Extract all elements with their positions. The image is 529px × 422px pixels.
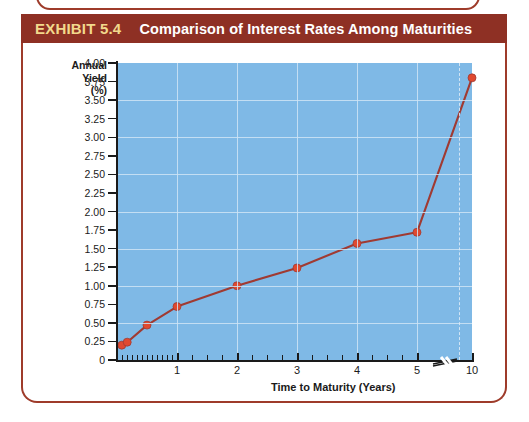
plot-region — [117, 63, 472, 360]
y-axis-tick-label: 2.75 — [73, 150, 105, 162]
x-axis-minor-tick — [327, 355, 328, 361]
exhibit-title: Comparison of Interest Rates Among Matur… — [139, 21, 472, 37]
x-axis-tick-label: 10 — [466, 364, 478, 376]
exhibit-number: EXHIBIT 5.4 — [35, 20, 121, 37]
gridline-vertical-dashed — [459, 63, 461, 360]
x-axis-minor-tick — [312, 355, 313, 361]
x-axis-title: Time to Maturity (Years) — [271, 381, 396, 393]
x-axis-minor-tick — [162, 355, 163, 361]
x-axis-minor-tick — [167, 355, 168, 361]
x-axis-tick — [472, 353, 474, 361]
y-axis-tick — [108, 359, 116, 361]
x-axis-minor-tick — [222, 355, 223, 361]
y-axis-tick — [108, 137, 116, 139]
y-axis-tick-label: 0.50 — [73, 317, 105, 329]
x-axis-minor-tick — [132, 355, 133, 361]
x-axis-minor-tick — [157, 355, 158, 361]
gridline-horizontal — [117, 249, 472, 250]
x-axis-minor-tick — [252, 355, 253, 361]
y-axis-tick — [108, 322, 116, 324]
series-data-point — [468, 74, 476, 82]
y-axis-tick — [108, 304, 116, 306]
y-axis-tick — [108, 341, 116, 343]
x-axis-minor-tick — [342, 355, 343, 361]
x-axis-minor-tick — [387, 355, 388, 361]
y-axis-tick — [108, 192, 116, 194]
x-axis-tick-label: 2 — [234, 364, 240, 376]
x-axis-tick — [237, 353, 239, 361]
x-axis-minor-tick — [192, 355, 193, 361]
y-axis-tick-label: 3.75 — [73, 76, 105, 88]
y-axis-tick — [108, 229, 116, 231]
y-axis-tick-label: 2.00 — [73, 206, 105, 218]
y-axis-tick — [108, 174, 116, 176]
gridline-vertical — [357, 63, 358, 360]
exhibit-header: EXHIBIT 5.4 Comparison of Interest Rates… — [21, 14, 507, 43]
x-axis-tick — [177, 353, 179, 361]
y-axis-tick — [108, 285, 116, 287]
page-top-rounded-rule — [36, 0, 480, 10]
chart-area: Annual Yield (%) 4.003.753.503.253.002.7… — [21, 43, 507, 403]
axis-break-icon — [432, 356, 458, 368]
y-axis-tick-label: 0.75 — [73, 298, 105, 310]
y-axis-tick-label: 3.50 — [73, 94, 105, 106]
gridline-horizontal — [117, 212, 472, 213]
x-axis-minor-tick — [282, 355, 283, 361]
x-axis-tick — [297, 353, 299, 361]
gridline-horizontal — [117, 174, 472, 175]
x-axis-minor-tick — [142, 355, 143, 361]
gridline-horizontal — [117, 286, 472, 287]
y-axis-tick-label: 1.25 — [73, 261, 105, 273]
y-axis-tick — [108, 248, 116, 250]
y-axis-tick-label: 1.50 — [73, 243, 105, 255]
y-axis-tick-label: 3.00 — [73, 131, 105, 143]
x-axis-minor-tick — [207, 355, 208, 361]
x-axis-tick-label: 1 — [174, 364, 180, 376]
x-axis-minor-tick — [147, 355, 148, 361]
gridline-horizontal — [117, 137, 472, 138]
series-data-point — [123, 338, 131, 346]
y-axis-line — [116, 61, 118, 362]
x-axis-minor-tick — [372, 355, 373, 361]
x-axis-tick-label: 5 — [414, 364, 420, 376]
x-axis-minor-tick — [122, 355, 123, 361]
exhibit-figure: EXHIBIT 5.4 Comparison of Interest Rates… — [0, 0, 529, 422]
x-axis-minor-tick — [402, 355, 403, 361]
gridline-horizontal — [117, 100, 472, 101]
gridline-horizontal — [117, 323, 472, 324]
x-axis-tick-label: 3 — [294, 364, 300, 376]
x-axis-minor-tick — [267, 355, 268, 361]
y-axis-tick-label: 1.00 — [73, 280, 105, 292]
gridline-vertical — [297, 63, 298, 360]
y-axis-tick — [108, 155, 116, 157]
y-axis-tick-label: 2.50 — [73, 168, 105, 180]
y-axis-tick — [108, 118, 116, 120]
y-axis-tick-label: 0 — [73, 354, 105, 366]
y-axis-tick — [108, 62, 116, 64]
y-axis-tick-label: 0.25 — [73, 335, 105, 347]
gridline-vertical — [417, 63, 418, 360]
gridline-vertical — [177, 63, 178, 360]
y-axis-tick — [108, 99, 116, 101]
x-axis-tick — [417, 353, 419, 361]
y-axis-tick-label: 2.25 — [73, 187, 105, 199]
x-axis-minor-tick — [127, 355, 128, 361]
gridline-vertical — [237, 63, 238, 360]
x-axis-minor-tick — [137, 355, 138, 361]
x-axis-tick — [357, 353, 359, 361]
y-axis-tick-label: 4.00 — [73, 57, 105, 69]
y-axis-tick — [108, 211, 116, 213]
x-axis-minor-tick — [172, 355, 173, 361]
y-axis-tick — [108, 81, 116, 83]
y-axis-tick — [108, 266, 116, 268]
x-axis-minor-tick — [152, 355, 153, 361]
x-axis-tick-label: 4 — [354, 364, 360, 376]
x-axis-line — [116, 360, 474, 362]
y-axis-tick-label: 1.75 — [73, 224, 105, 236]
y-axis-tick-label: 3.25 — [73, 113, 105, 125]
